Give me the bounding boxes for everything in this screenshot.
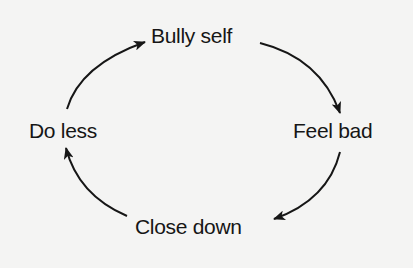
arrow-do-less-to-bully-self: [67, 42, 145, 109]
node-bully-self: Bully self: [151, 25, 232, 46]
arrow-bully-self-to-feel-bad: [260, 43, 340, 113]
arrow-feel-bad-to-close-down: [274, 152, 340, 219]
arrow-close-down-to-do-less: [66, 148, 127, 216]
node-close-down: Close down: [135, 216, 242, 237]
node-feel-bad: Feel bad: [293, 120, 372, 141]
node-do-less: Do less: [29, 120, 97, 141]
cycle-diagram: Bully self Feel bad Close down Do less: [0, 0, 413, 268]
